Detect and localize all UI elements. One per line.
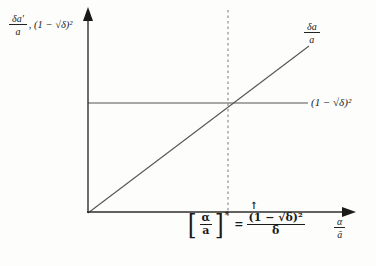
figure-canvas: δa′a , (1 − √δ)² δaa (1 − √δ)² αā [ αa ]… — [0, 0, 376, 266]
formula-lhs-fraction: αa — [200, 212, 212, 237]
diagonal-line-label-numerator: δa — [304, 21, 320, 33]
y-axis-label-denominator: a — [15, 25, 20, 37]
formula-right-bracket: ] — [215, 211, 224, 238]
x-axis-label-fraction: αā — [334, 216, 345, 240]
critical-value-formula: [ αa ] * = ↑(1 − √δ)²δ — [187, 211, 305, 238]
diagonal-line-label: δaa — [304, 20, 320, 45]
formula-left-bracket: [ — [188, 211, 197, 238]
formula-rhs-denominator: δ — [270, 225, 281, 237]
formula-rhs-numerator: ↑(1 − √δ)² — [247, 212, 305, 225]
y-axis-label-numerator: δa′ — [9, 13, 27, 25]
horizontal-line-label: (1 − √δ)² — [311, 96, 351, 108]
y-axis-arrow-icon — [83, 7, 93, 21]
diagonal-line-label-denominator: a — [309, 33, 314, 45]
x-axis-label-denominator: ā — [337, 228, 342, 240]
y-axis-label: δa′a , (1 − √δ)² — [9, 13, 72, 37]
y-axis-label-suffix: , (1 − √δ)² — [29, 19, 73, 31]
formula-superscript: * — [225, 210, 230, 220]
x-axis-label-numerator: α — [334, 216, 345, 228]
formula-lhs-denominator: a — [200, 225, 211, 237]
y-axis-label-fraction: δa′a — [9, 13, 27, 37]
formula-rhs-numerator-text: (1 − √δ)² — [249, 211, 303, 224]
formula-rhs-fraction: ↑(1 − √δ)²δ — [247, 212, 305, 237]
diagonal-line-label-fraction: δaa — [304, 21, 320, 45]
up-arrow-icon: ↑ — [250, 201, 258, 211]
x-axis-label: αā — [334, 215, 345, 240]
formula-equals: = — [234, 218, 243, 231]
diagonal-line — [88, 46, 309, 213]
